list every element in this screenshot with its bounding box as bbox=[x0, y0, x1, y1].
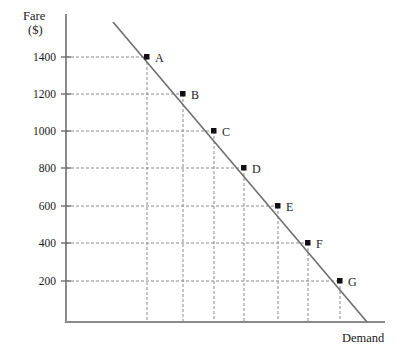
data-point-label-g: G bbox=[348, 275, 357, 289]
data-point-a bbox=[144, 54, 150, 60]
demand-curve-chart: 1400 1200 1000 800 600 400 200 Fare ($) … bbox=[0, 0, 402, 359]
data-point-g bbox=[337, 278, 343, 284]
data-point-b bbox=[180, 91, 186, 97]
chart-canvas: 1400 1200 1000 800 600 400 200 Fare ($) … bbox=[0, 0, 402, 359]
data-point-label-c: C bbox=[222, 125, 230, 139]
data-point-f bbox=[305, 240, 311, 246]
y-axis-tick-labels: 1400 1200 1000 800 600 400 200 bbox=[33, 51, 56, 287]
data-point-labels: A B C D E F G bbox=[155, 51, 357, 289]
demand-curve-line bbox=[113, 22, 367, 322]
y-axis-title: Fare ($) bbox=[23, 9, 46, 37]
y-tick-label-1000: 1000 bbox=[33, 125, 56, 137]
data-point-label-b: B bbox=[191, 88, 199, 102]
data-point-d bbox=[241, 165, 247, 171]
data-point-c bbox=[211, 128, 217, 134]
y-axis-title-line2: ($) bbox=[28, 23, 43, 37]
y-axis-title-line1: Fare bbox=[23, 9, 46, 23]
y-tick-label-1400: 1400 bbox=[33, 51, 56, 63]
x-axis-title: Demand bbox=[342, 331, 385, 345]
y-tick-label-200: 200 bbox=[39, 275, 57, 287]
data-point-label-a: A bbox=[155, 51, 164, 65]
y-tick-label-600: 600 bbox=[39, 200, 57, 212]
y-tick-label-800: 800 bbox=[39, 162, 57, 174]
y-tick-label-1200: 1200 bbox=[33, 88, 56, 100]
data-point-e bbox=[275, 203, 281, 209]
data-points bbox=[144, 54, 343, 284]
data-point-label-f: F bbox=[316, 237, 323, 251]
data-point-label-d: D bbox=[252, 162, 261, 176]
data-point-label-e: E bbox=[286, 200, 293, 214]
y-tick-label-400: 400 bbox=[39, 237, 57, 249]
horizontal-gridlines bbox=[66, 57, 340, 281]
